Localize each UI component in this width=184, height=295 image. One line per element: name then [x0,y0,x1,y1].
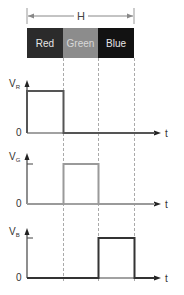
color-label-green: Green [67,38,95,49]
y-axis-label: VR [9,78,21,90]
x-axis-arrow-icon [154,276,161,281]
x-axis-label: t [165,128,168,139]
x-axis-arrow-icon [154,131,161,136]
signal-pulse [27,164,155,204]
y-axis-arrow-icon [25,80,30,87]
timing-diagram: H Red Green Blue VR0tVG0tVB0t [0,0,184,295]
plot-g: VG0t [9,151,168,210]
y-axis-label: VG [9,151,21,163]
arrow-right-icon [127,14,133,19]
y-axis-arrow-icon [25,153,30,160]
signal-pulse [27,91,155,133]
plot-r: VR0t [9,78,168,139]
color-label-red: Red [36,38,54,49]
plot-b: VB0t [9,226,168,284]
arrow-left-icon [28,14,34,19]
zero-label: 0 [16,198,22,209]
x-axis-arrow-icon [154,202,161,207]
zero-label: 0 [16,127,22,138]
color-bar: Red Green Blue [27,28,134,58]
x-axis-label: t [165,199,168,210]
period-dimension: H [27,8,134,24]
x-axis-label: t [165,273,168,284]
period-label: H [77,10,85,22]
zero-label: 0 [16,272,22,283]
color-label-blue: Blue [106,38,126,49]
signal-pulse [27,238,155,278]
y-axis-arrow-icon [25,228,30,235]
y-axis-label: VB [9,226,20,238]
